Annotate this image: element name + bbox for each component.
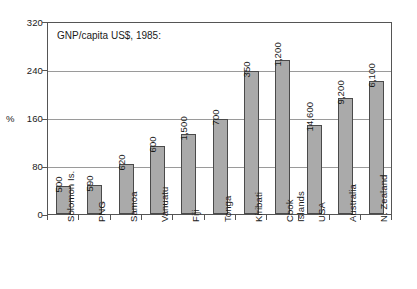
- y-axis-label: %: [6, 114, 14, 124]
- x-tick-mark-2: [110, 215, 111, 220]
- x-tick-mark-1: [78, 215, 79, 220]
- x-category-label-n-zealand: N. Zealand: [379, 175, 390, 222]
- x-tick-mark-4: [172, 215, 173, 220]
- bar-value-samoa: 620: [117, 154, 127, 170]
- bar-value-fiji: 1,500: [179, 116, 189, 140]
- x-category-label-samoa: Samoa: [129, 191, 140, 222]
- x-category-label-usa: USA: [317, 202, 328, 222]
- bar-usa: [307, 125, 322, 214]
- bar-value-kiribati: 350: [242, 61, 252, 77]
- x-category-label-tonga: Tonga: [223, 196, 234, 222]
- x-tick-mark-7: [266, 215, 267, 220]
- x-category-label-cook-islands: CookIslands: [285, 191, 306, 222]
- gridline-240: [48, 71, 391, 72]
- x-tick-mark-5: [204, 215, 205, 220]
- bar-value-tonga: 700: [211, 109, 221, 125]
- x-tick-mark-3: [141, 215, 142, 220]
- x-category-label-vanuatu: Vanuatu: [160, 187, 171, 222]
- chart-annotation: GNP/capita US$, 1985:: [57, 31, 161, 41]
- y-tick-label-240: 240: [27, 66, 43, 76]
- bar-value-n-zealand: 6,100: [367, 63, 377, 87]
- bar-value-png: 590: [85, 175, 95, 191]
- bar-value-australia: 9,200: [336, 80, 346, 104]
- x-category-label-australia: Australia: [348, 184, 359, 222]
- y-tick-label-320: 320: [27, 18, 43, 28]
- x-tick-mark-10: [360, 215, 361, 220]
- y-tick-label-160: 160: [27, 114, 43, 124]
- x-category-label-cook-islands-line2: Islands: [296, 191, 307, 222]
- bar-value-cook-islands: 1,200: [273, 42, 283, 66]
- bar-chart-figure: 320 240 160 80 0 % GNP/capita US$, 1985:…: [0, 0, 417, 289]
- x-category-label-cook-islands-line1: Cook: [284, 199, 295, 222]
- bar-value-usa: 14,600: [305, 102, 315, 132]
- x-category-label-png: PNG: [97, 201, 108, 222]
- bar-value-solomon-is: 500: [54, 176, 64, 192]
- x-tick-mark-6: [235, 215, 236, 220]
- x-tick-mark-0: [47, 215, 48, 220]
- x-tick-mark-9: [329, 215, 330, 220]
- x-category-label-fiji: Fiji: [191, 209, 202, 222]
- y-axis: 320 240 160 80 0: [0, 0, 43, 289]
- x-category-label-kiribati: Kiribati: [254, 192, 265, 222]
- x-category-label-solomon-is: Solomon Is.: [66, 171, 77, 222]
- x-tick-mark-11: [391, 215, 392, 220]
- bar-value-vanuatu: 600: [148, 136, 158, 152]
- bar-fiji: [181, 134, 196, 214]
